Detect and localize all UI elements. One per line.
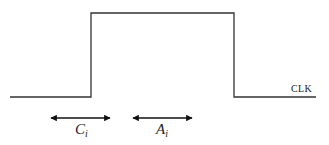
- clk-label: CLK: [291, 83, 312, 94]
- interval-ai: Ai: [133, 118, 192, 139]
- interval-ci: Ci: [51, 118, 110, 139]
- ci-label: Ci: [75, 121, 88, 139]
- ai-label: Ai: [155, 121, 168, 139]
- clk-waveform: [10, 13, 316, 97]
- clock-timing-diagram: CLK Ci Ai: [0, 0, 329, 145]
